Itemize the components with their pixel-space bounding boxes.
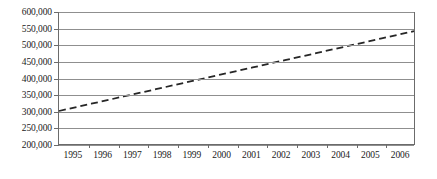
x-axis-tick-label: 1999 [177,150,207,161]
x-tick-9 [327,144,328,148]
y-tick-400000 [54,79,59,80]
x-axis-tick-label: 1996 [88,150,118,161]
y-tick-200000 [54,145,59,146]
gridline-600000 [59,12,414,13]
x-axis-labels: 1995199619971998199920002001200220032004… [58,150,415,166]
y-tick-300000 [54,112,59,113]
x-axis-tick-label: 2000 [207,150,237,161]
y-axis-tick-label: 250,000 [0,123,52,133]
plot-area [58,12,415,145]
x-tick-6 [238,144,239,148]
gridline-500000 [59,45,414,46]
y-tick-500000 [54,45,59,46]
y-axis-tick-label: 500,000 [0,40,52,50]
y-axis-tick-label: 300,000 [0,107,52,117]
y-tick-450000 [54,62,59,63]
y-axis-tick-label: 600,000 [0,7,52,17]
gridline-550000 [59,29,414,30]
y-axis-labels: 600,000550,000500,000450,000400,000350,0… [0,0,52,179]
x-tick-2 [119,144,120,148]
gridline-250000 [59,128,414,129]
y-tick-250000 [54,128,59,129]
chart-screenshot: 600,000550,000500,000450,000400,000350,0… [0,0,437,179]
gridline-350000 [59,95,414,96]
x-axis-tick-label: 2004 [326,150,356,161]
x-tick-10 [357,144,358,148]
x-axis-tick-label: 1997 [118,150,148,161]
y-tick-600000 [54,12,59,13]
x-axis-tick-label: 2001 [237,150,267,161]
x-axis-tick-label: 2003 [296,150,326,161]
x-axis-tick-label: 2006 [385,150,415,161]
y-axis-tick-label: 550,000 [0,24,52,34]
y-tick-350000 [54,95,59,96]
gridline-450000 [59,62,414,63]
x-tick-7 [267,144,268,148]
x-tick-11 [386,144,387,148]
y-tick-550000 [54,29,59,30]
x-axis-tick-label: 2002 [266,150,296,161]
y-axis-tick-label: 200,000 [0,140,52,150]
x-tick-3 [148,144,149,148]
x-axis-tick-label: 1998 [147,150,177,161]
y-axis-tick-label: 350,000 [0,90,52,100]
x-tick-4 [178,144,179,148]
x-tick-5 [208,144,209,148]
x-tick-8 [297,144,298,148]
y-axis-tick-label: 400,000 [0,74,52,84]
gridline-400000 [59,79,414,80]
x-axis-tick-label: 2005 [356,150,386,161]
gridline-200000 [59,145,414,146]
x-tick-1 [89,144,90,148]
gridline-300000 [59,112,414,113]
x-axis-tick-label: 1995 [58,150,88,161]
y-axis-tick-label: 450,000 [0,57,52,67]
series-polyline [59,31,414,111]
